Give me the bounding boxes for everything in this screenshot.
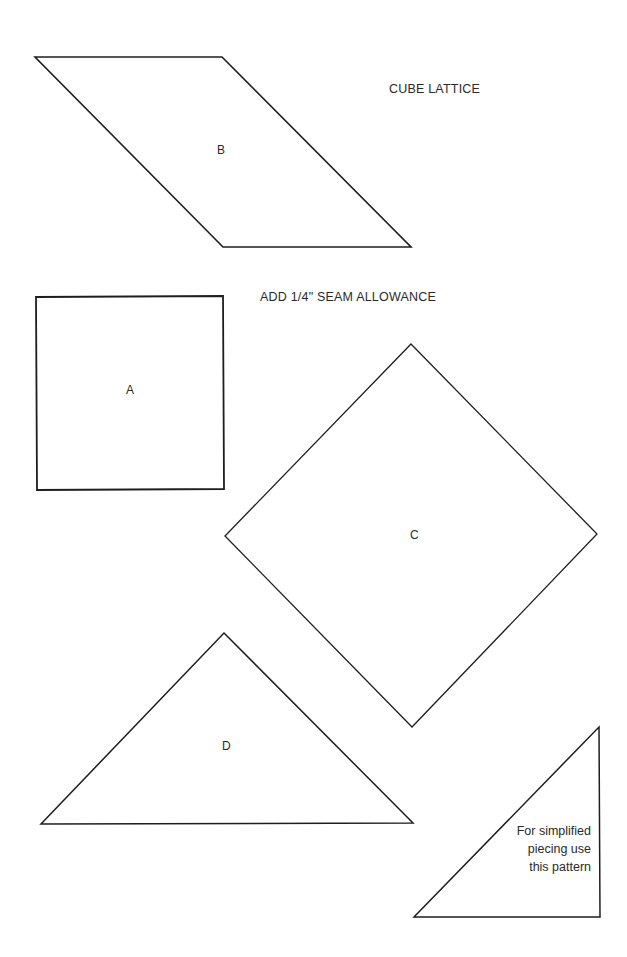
piece-d-triangle [41, 633, 413, 824]
note-line-1: For simplified [517, 822, 591, 840]
simplified-piecing-note: For simplified piecing use this pattern [517, 822, 591, 876]
note-line-3: this pattern [517, 858, 591, 876]
pattern-canvas [0, 0, 627, 957]
seam-allowance-instruction: ADD 1/4" SEAM ALLOWANCE [260, 291, 436, 303]
piece-c-label: C [410, 529, 419, 541]
piece-d-label: D [222, 740, 231, 752]
note-line-2: piecing use [517, 840, 591, 858]
piece-b-label: B [217, 144, 225, 156]
pattern-title: CUBE LATTICE [389, 83, 480, 95]
piece-a-label: A [126, 384, 134, 396]
